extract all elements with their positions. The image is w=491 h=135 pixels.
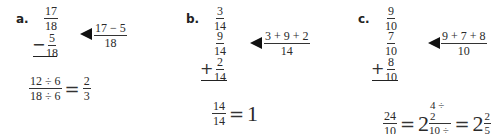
mixed-whole: 2 xyxy=(473,111,484,135)
equals-sign: = xyxy=(400,113,415,134)
equals-sign: = xyxy=(454,113,469,134)
arrow-left-icon xyxy=(428,37,440,49)
plus-sign: + xyxy=(371,59,384,78)
result-line: 24 10 = 2 4 ÷ 2 10 ÷ 2 = 2 2 5 xyxy=(383,100,491,134)
plus-sign: + xyxy=(200,59,213,78)
mixed-whole: 2 xyxy=(418,111,429,135)
result-line: 12 ÷ 6 18 ÷ 6 = 2 3 xyxy=(29,75,91,102)
arrow-left-icon xyxy=(80,28,92,40)
hint-fraction: 3 + 9 + 2 14 xyxy=(264,30,310,57)
fraction: 2 5 xyxy=(484,111,491,134)
fraction: 14 14 xyxy=(212,100,226,127)
fraction: 8 10 xyxy=(385,56,397,83)
fraction: 2 14 xyxy=(214,56,226,83)
fraction: 9 10 xyxy=(385,5,397,32)
problem-b-label: b. xyxy=(186,12,199,26)
sum-rule xyxy=(201,80,227,81)
fraction: 24 10 xyxy=(383,110,397,134)
fraction: 5 18 xyxy=(46,32,58,59)
equals-sign: = xyxy=(65,78,80,99)
equals-sign: = xyxy=(229,103,244,124)
minus-sign: − xyxy=(32,35,45,54)
problem-c-label: c. xyxy=(358,12,370,26)
fraction: 4 ÷ 2 10 ÷ 2 xyxy=(429,100,451,134)
result-value: 1 xyxy=(247,101,258,127)
fraction: 9 14 xyxy=(214,30,226,57)
result-line: 14 14 = 1 xyxy=(212,100,258,127)
fraction: 2 3 xyxy=(83,75,91,102)
fraction: 7 10 xyxy=(385,30,397,57)
fraction: 12 ÷ 6 18 ÷ 6 xyxy=(29,75,62,102)
arrow-left-icon xyxy=(250,37,262,49)
fraction: 17 18 xyxy=(44,5,58,32)
problem-a-label: a. xyxy=(16,12,29,26)
sum-rule xyxy=(372,80,398,81)
hint-fraction: 17 − 5 18 xyxy=(94,22,127,49)
fraction: 3 14 xyxy=(214,5,226,32)
hint-fraction: 9 + 7 + 8 10 xyxy=(441,30,487,57)
sum-rule xyxy=(33,56,57,57)
